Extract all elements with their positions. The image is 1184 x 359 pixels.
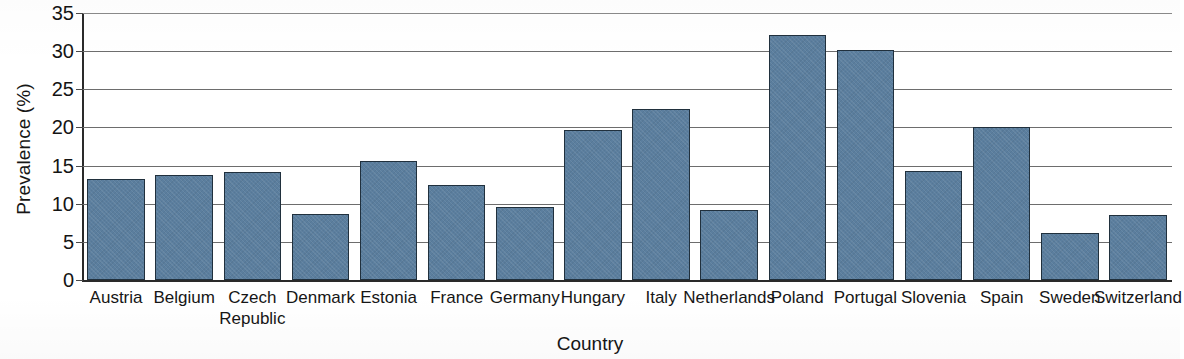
bar-italy	[632, 109, 690, 280]
plot-area	[82, 13, 1172, 280]
y-tick-label-20: 20	[28, 117, 74, 137]
x-tick-label-switzerland: Switzerland	[1092, 287, 1184, 308]
bar-hungary	[564, 130, 622, 280]
y-tick-label-25: 25	[28, 79, 74, 99]
y-tick-label-10: 10	[28, 194, 74, 214]
x-axis-title: Country	[0, 333, 1180, 355]
bar-portugal	[837, 50, 895, 280]
bar-denmark	[292, 214, 350, 280]
y-tickmark-15	[76, 166, 83, 167]
bar-slovenia	[905, 171, 963, 280]
bar-estonia	[360, 161, 418, 280]
bar-poland	[769, 35, 827, 280]
y-tick-label-5: 5	[28, 232, 74, 252]
bar-switzerland	[1109, 215, 1167, 280]
y-tickmark-30	[76, 51, 83, 52]
bar-austria	[87, 179, 145, 280]
y-tickmark-5	[76, 242, 83, 243]
y-tickmark-35	[76, 13, 83, 14]
y-tick-label-0: 0	[28, 270, 74, 290]
bar-spain	[973, 127, 1031, 280]
y-tickmark-0	[76, 280, 83, 281]
y-tickmark-10	[76, 204, 83, 205]
y-tick-label-30: 30	[28, 41, 74, 61]
y-tickmark-25	[76, 89, 83, 90]
bar-series	[82, 13, 1172, 280]
bar-sweden	[1041, 233, 1099, 280]
gridline-0	[82, 280, 1172, 282]
bar-germany	[496, 207, 554, 280]
y-axis-tick-labels: 05101520253035	[28, 0, 74, 359]
bar-czech-republic	[224, 172, 282, 280]
y-tick-label-35: 35	[28, 3, 74, 23]
y-tickmark-20	[76, 127, 83, 128]
y-tick-label-15: 15	[28, 156, 74, 176]
bar-france	[428, 185, 486, 280]
bar-netherlands	[700, 210, 758, 280]
x-axis-tick-labels: AustriaBelgiumCzech RepublicDenmarkEston…	[82, 287, 1172, 337]
bar-belgium	[155, 175, 213, 280]
